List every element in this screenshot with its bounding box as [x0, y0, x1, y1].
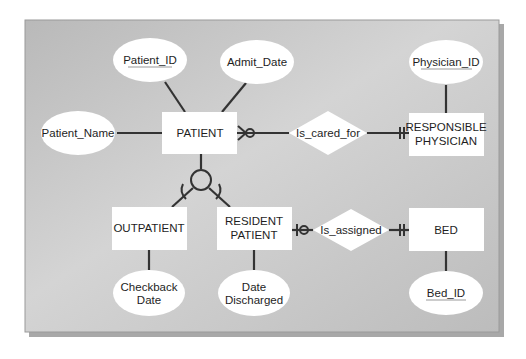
label-date-discharged-2: Discharged [225, 294, 283, 306]
label-patient-name: Patient_Name [42, 127, 115, 139]
label-rel-is-assigned: Is_assigned [320, 224, 381, 236]
label-entity-resident-1: RESIDENT [225, 215, 283, 227]
label-entity-bed: BED [434, 224, 458, 236]
label-physician-id: Physician_ID [412, 56, 479, 68]
label-entity-resident-2: PATIENT [231, 229, 278, 241]
label-patient-id: Patient_ID [123, 54, 177, 66]
label-bed-id: Bed_ID [427, 287, 465, 299]
attribute-date-discharged [218, 270, 290, 316]
label-entity-outpatient: OUTPATIENT [113, 222, 184, 234]
label-checkback-2: Date [137, 294, 161, 306]
label-checkback-1: Checkback [121, 281, 178, 293]
er-diagram: Patient_ID Admit_Date Patient_Name Physi… [0, 0, 526, 359]
label-admit-date: Admit_Date [227, 56, 287, 68]
label-entity-physician-1: RESPONSIBLE [405, 121, 486, 133]
label-entity-physician-2: PHYSICIAN [415, 135, 477, 147]
label-rel-is-cared-for: Is_cared_for [296, 127, 360, 139]
label-entity-patient: PATIENT [177, 127, 224, 139]
label-date-discharged-1: Date [242, 281, 266, 293]
attribute-checkback-date [113, 270, 185, 316]
